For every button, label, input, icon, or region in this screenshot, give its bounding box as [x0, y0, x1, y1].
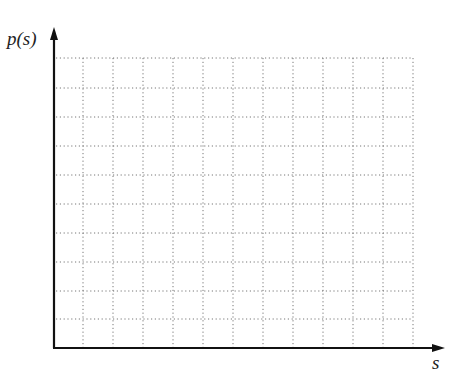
- blank-graph: [0, 0, 476, 379]
- x-axis-label: s: [432, 352, 439, 374]
- y-axis-label: p(s): [7, 28, 37, 50]
- y-axis: [50, 27, 58, 348]
- x-axis: [53, 344, 445, 352]
- grid: [56, 58, 413, 347]
